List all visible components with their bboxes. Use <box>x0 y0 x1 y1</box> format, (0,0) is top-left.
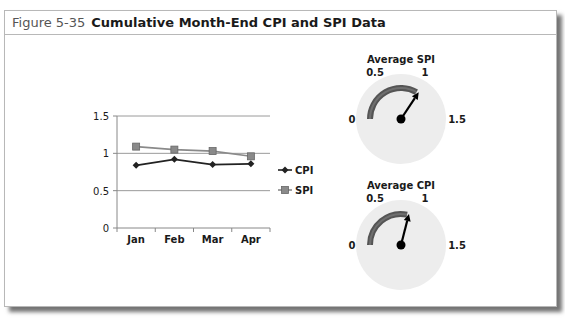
series-spi <box>133 143 255 160</box>
y-tick-label: 1.5 <box>93 111 109 122</box>
square-marker <box>209 148 216 155</box>
x-tick-label: Jan <box>126 234 145 245</box>
gauge-tick-label: 1.5 <box>448 114 466 125</box>
diamond-marker <box>247 160 254 167</box>
square-marker <box>171 146 178 153</box>
legend-entry-spi: SPI <box>278 185 313 196</box>
x-tick-label: Mar <box>202 234 224 245</box>
gauge-title: Average SPI <box>367 54 435 65</box>
square-marker <box>247 153 254 160</box>
y-tick-labels: 00.511.5 <box>93 111 117 234</box>
gauge-average-spi: Average SPI00.511.5 <box>349 54 466 164</box>
x-tick-labels: JanFebMarApr <box>117 228 270 245</box>
gauge-hub <box>397 241 406 250</box>
legend-label: CPI <box>295 165 313 176</box>
diamond-marker <box>209 161 216 168</box>
y-tick-label: 1 <box>103 148 109 159</box>
legend-label: SPI <box>295 185 313 196</box>
gauge-hub <box>397 115 406 124</box>
gauge-tick-label: 0.5 <box>366 67 384 78</box>
square-marker <box>282 187 289 194</box>
x-tick-label: Apr <box>241 234 261 245</box>
gauge-tick-label: 0.5 <box>366 193 384 204</box>
chart-legend: CPISPI <box>278 165 313 196</box>
gauge-tick-label: 0 <box>349 240 356 251</box>
gauge-tick-label: 1 <box>422 67 429 78</box>
charts-canvas: 00.511.5 JanFebMarApr CPISPI Average SPI… <box>0 0 565 318</box>
x-tick-label: Feb <box>164 234 184 245</box>
series-cpi <box>133 156 255 169</box>
diamond-marker <box>133 162 140 169</box>
gauge-title: Average CPI <box>367 180 435 191</box>
gauge-average-cpi: Average CPI00.511.5 <box>349 180 466 290</box>
diamond-marker <box>282 167 289 174</box>
legend-entry-cpi: CPI <box>278 165 313 176</box>
y-tick-label: 0 <box>103 223 109 234</box>
line-chart: 00.511.5 JanFebMarApr CPISPI <box>93 111 313 245</box>
square-marker <box>133 143 140 150</box>
gauge-tick-label: 1.5 <box>448 240 466 251</box>
series-lines <box>133 143 255 169</box>
diamond-marker <box>171 156 178 163</box>
gauge-tick-label: 1 <box>422 193 429 204</box>
y-tick-label: 0.5 <box>93 186 109 197</box>
gauge-tick-label: 0 <box>349 114 356 125</box>
